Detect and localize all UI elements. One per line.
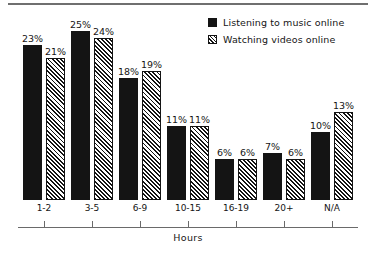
- bar-watching: [142, 71, 161, 200]
- bar-watching: [238, 159, 257, 200]
- bar-group: 6% 6%: [212, 14, 260, 200]
- bar-listening: [263, 153, 282, 200]
- x-tick-label: 6-9: [116, 203, 164, 213]
- bar-group: 25% 24%: [68, 14, 116, 200]
- bar-value-label: 11%: [189, 114, 210, 125]
- bar-wrapper: 18%: [119, 14, 138, 200]
- bar-watching: [190, 126, 209, 200]
- x-tick-label: N/A: [308, 203, 356, 213]
- bar-wrapper: 24%: [94, 14, 113, 200]
- x-tick-label: 1-2: [20, 203, 68, 213]
- x-tick-label: 10-15: [164, 203, 212, 213]
- bar-value-label: 23%: [22, 33, 43, 44]
- bar-listening: [71, 31, 90, 200]
- x-axis-category-labels: 1-2 3-5 6-9 10-15 16-19 20+ N/A: [14, 203, 362, 213]
- figure-top-rule: [8, 3, 368, 5]
- bar-wrapper: 19%: [142, 14, 161, 200]
- bar-value-label: 13%: [333, 100, 354, 111]
- bar-wrapper: 6%: [238, 14, 257, 200]
- bar-wrapper: 13%: [334, 14, 353, 200]
- bar-watching: [94, 38, 113, 200]
- bar-wrapper: 23%: [23, 14, 42, 200]
- bar-value-label: 10%: [310, 120, 331, 131]
- bar-value-label: 24%: [93, 26, 114, 37]
- bar-value-label: 21%: [45, 46, 66, 57]
- bar-wrapper: 10%: [311, 14, 330, 200]
- bar-group: 7% 6%: [260, 14, 308, 200]
- bar-value-label: 19%: [141, 59, 162, 70]
- bar-value-label: 7%: [265, 141, 280, 152]
- plot-area: 23% 21% 25% 24%: [14, 14, 362, 200]
- x-tick-label: 3-5: [68, 203, 116, 213]
- x-axis-line: [18, 227, 358, 228]
- bar-listening: [311, 132, 330, 200]
- bar-value-label: 11%: [166, 114, 187, 125]
- bar-wrapper: 6%: [286, 14, 305, 200]
- bar-listening: [119, 78, 138, 200]
- bar-value-label: 25%: [70, 19, 91, 30]
- bar-wrapper: 7%: [263, 14, 282, 200]
- bar-group: 11% 11%: [164, 14, 212, 200]
- bar-value-label: 6%: [240, 147, 255, 158]
- chart-figure: Listening to music online Watching video…: [0, 0, 376, 261]
- bar-wrapper: 6%: [215, 14, 234, 200]
- x-axis-title: Hours: [0, 232, 376, 243]
- bar-value-label: 6%: [217, 147, 232, 158]
- bar-listening: [215, 159, 234, 200]
- bar-value-label: 18%: [118, 66, 139, 77]
- bar-watching: [46, 58, 65, 200]
- bar-groups: 23% 21% 25% 24%: [14, 14, 362, 200]
- bar-group: 18% 19%: [116, 14, 164, 200]
- x-tick-label: 16-19: [212, 203, 260, 213]
- bar-group: 10% 13%: [308, 14, 356, 200]
- bar-listening: [23, 45, 42, 200]
- bar-watching: [286, 159, 305, 200]
- bar-wrapper: 11%: [167, 14, 186, 200]
- bar-watching: [334, 112, 353, 200]
- bar-group: 23% 21%: [20, 14, 68, 200]
- x-tick-label: 20+: [260, 203, 308, 213]
- bar-wrapper: 25%: [71, 14, 90, 200]
- bar-wrapper: 11%: [190, 14, 209, 200]
- bar-listening: [167, 126, 186, 200]
- bar-wrapper: 21%: [46, 14, 65, 200]
- bar-value-label: 6%: [288, 147, 303, 158]
